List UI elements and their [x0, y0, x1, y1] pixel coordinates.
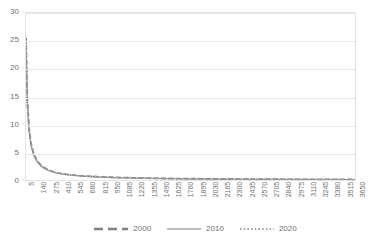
legend-swatch-2020-icon — [240, 225, 274, 233]
gridline — [26, 154, 355, 155]
y-tick-label: 30 — [10, 8, 19, 16]
series-line-2020 — [26, 43, 355, 180]
x-tick-label: 2165 — [224, 182, 231, 197]
x-tick-label: 815 — [102, 182, 109, 193]
x-tick-label: 1760 — [187, 182, 194, 197]
legend-item-2020[interactable]: 2020 — [240, 225, 297, 233]
legend-swatch-2000-icon — [94, 225, 128, 233]
y-axis: 051015202530 — [0, 12, 22, 181]
y-tick-label: 15 — [10, 93, 19, 101]
x-tick-label: 2705 — [273, 182, 280, 197]
x-tick-label: 2300 — [236, 182, 243, 197]
legend-swatch-2010-icon — [167, 225, 201, 233]
legend-label: 2010 — [206, 225, 224, 233]
x-tick-label: 275 — [53, 182, 60, 193]
x-tick-label: 3650 — [359, 182, 366, 197]
x-tick-label: 1490 — [163, 182, 170, 197]
x-tick-label: 1625 — [175, 182, 182, 197]
x-tick-label: 2435 — [249, 182, 256, 197]
gridline — [26, 13, 355, 14]
legend-item-2000[interactable]: 2000 — [94, 225, 151, 233]
chart-legend: 200020102020 — [0, 221, 391, 237]
chart-title: Rank-size distribution — [0, 0, 391, 1]
series-line-2000 — [26, 37, 355, 179]
series-layer — [26, 13, 355, 180]
gridline — [26, 126, 355, 127]
x-tick-label: 2840 — [285, 182, 292, 197]
series-line-2010 — [26, 40, 355, 179]
x-tick-label: 5 — [28, 182, 35, 186]
x-tick-label: 950 — [114, 182, 121, 193]
x-tick-label: 2030 — [212, 182, 219, 197]
y-tick-label: 25 — [10, 36, 19, 44]
x-tick-label: 1895 — [200, 182, 207, 197]
x-tick-label: 410 — [65, 182, 72, 193]
x-axis: 5140275410545680815950108512201355149016… — [25, 182, 356, 218]
x-tick-label: 3380 — [334, 182, 341, 197]
gridline — [26, 41, 355, 42]
legend-label: 2000 — [133, 225, 151, 233]
gridline — [26, 69, 355, 70]
x-tick-label: 1220 — [138, 182, 145, 197]
y-tick-label: 10 — [10, 121, 19, 129]
gridline — [26, 98, 355, 99]
x-tick-label: 680 — [89, 182, 96, 193]
x-tick-label: 3515 — [347, 182, 354, 197]
x-tick-label: 1355 — [151, 182, 158, 197]
x-tick-label: 3110 — [310, 182, 317, 197]
chart-container: Rank-size distribution 051015202530 5140… — [0, 0, 391, 241]
x-tick-label: 545 — [77, 182, 84, 193]
x-tick-label: 3245 — [322, 182, 329, 197]
y-tick-label: 0 — [15, 177, 19, 185]
y-tick-label: 5 — [15, 149, 19, 157]
y-tick-label: 20 — [10, 64, 19, 72]
x-tick-label: 1085 — [126, 182, 133, 197]
plot-area — [25, 12, 356, 181]
legend-label: 2020 — [279, 225, 297, 233]
legend-item-2010[interactable]: 2010 — [167, 225, 224, 233]
x-tick-label: 2975 — [298, 182, 305, 197]
x-tick-label: 140 — [40, 182, 47, 193]
x-tick-label: 2570 — [261, 182, 268, 197]
